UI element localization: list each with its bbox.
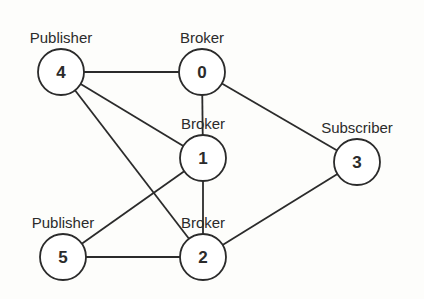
edge-0-3 [222, 84, 337, 151]
node-id-label: 2 [198, 248, 207, 267]
node-id-label: 5 [58, 248, 67, 267]
node-id-label: 4 [56, 63, 66, 82]
node-0: Broker0 [179, 29, 225, 95]
node-5: Publisher5 [32, 214, 95, 280]
node-id-label: 0 [197, 63, 206, 82]
edge-4-1 [81, 84, 184, 146]
node-role-label: Broker [181, 115, 225, 132]
node-id-label: 1 [198, 149, 207, 168]
network-diagram: Broker0Broker1Broker2Subscriber3Publishe… [0, 0, 424, 299]
graph-svg: Broker0Broker1Broker2Subscriber3Publishe… [0, 0, 424, 299]
node-role-label: Publisher [30, 29, 93, 46]
node-1: Broker1 [180, 115, 226, 181]
node-role-label: Broker [180, 29, 224, 46]
node-id-label: 3 [352, 153, 361, 172]
node-role-label: Broker [181, 214, 225, 231]
edge-1-5 [82, 171, 184, 243]
node-role-label: Publisher [32, 214, 95, 231]
node-3: Subscriber3 [321, 119, 393, 185]
node-role-label: Subscriber [321, 119, 393, 136]
node-2: Broker2 [180, 214, 226, 280]
edge-2-3 [223, 174, 338, 245]
